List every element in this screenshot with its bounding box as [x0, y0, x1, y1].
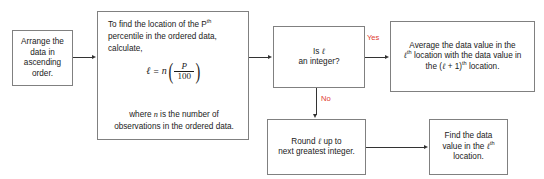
node-compute-location: To find the location of the Pth percenti…	[97, 11, 249, 140]
formula-tail-line-1-post: is the number of	[158, 110, 219, 119]
node-arrange-data: Arrange the data in ascending order.	[12, 30, 73, 86]
arrowhead-arrange-to-formula	[92, 55, 96, 59]
find-superscript-th: th	[490, 140, 495, 146]
round-line-2: next greatest integer.	[278, 147, 354, 156]
connector-round-to-find	[366, 147, 425, 148]
equation-lhs: ℓ	[146, 65, 150, 78]
formula-lead-text: To find the location of the Pth percenti…	[108, 19, 240, 55]
node-find-value-label: Find the data value in the ℓth location.	[434, 131, 503, 163]
formula-tail-line-1-pre: where	[129, 110, 154, 119]
node-average-label: Average the data value in the ℓth locati…	[395, 41, 530, 73]
equation-equals-sign: =	[154, 66, 159, 78]
formula-tail-text: where n is the number of observations in…	[108, 109, 240, 133]
arrowhead-decision-to-round	[313, 114, 317, 118]
formula-lead-line-1: To find the location of the P	[108, 20, 207, 29]
find-line-1: Find the data	[445, 131, 493, 140]
node-is-l-integer: Is ℓ an integer?	[273, 26, 365, 88]
average-line-2-post: location with the data value in	[412, 51, 522, 60]
equation-right-paren: )	[195, 63, 200, 81]
connector-decision-to-round	[316, 88, 317, 115]
arrowhead-decision-to-average	[385, 55, 389, 59]
edge-label-yes: Yes	[367, 33, 379, 42]
connector-arrange-to-formula	[73, 57, 93, 58]
average-line-3-pre: the (	[426, 62, 442, 71]
formula-lead-line-2: percentile in the ordered data,	[108, 32, 217, 41]
node-arrange-data-label: Arrange the data in ascending order.	[17, 37, 68, 79]
node-round-up-label: Round ℓ up to next greatest integer.	[272, 137, 361, 158]
node-find-value: Find the data value in the ℓth location.	[429, 119, 508, 175]
round-line-1-post: up to	[321, 137, 342, 146]
arrowhead-formula-to-decision	[268, 55, 272, 59]
formula-tail-line-2: observations in the ordered data.	[114, 122, 234, 131]
formula-lead-line-1-superscript: th	[207, 18, 212, 24]
edge-label-no: No	[321, 94, 331, 103]
equation-numerator: P	[178, 62, 190, 72]
find-line-2-pre: value in the	[442, 142, 486, 151]
equation-fraction: P 100	[174, 62, 194, 82]
equation-left-paren: (	[168, 63, 173, 81]
formula-equation: ℓ = n ( P 100 )	[108, 62, 240, 82]
decision-line-1-pre: Is	[313, 47, 322, 56]
decision-variable-l: ℓ	[322, 47, 325, 56]
arrowhead-round-to-find	[424, 145, 428, 149]
formula-lead-line-3: calculate,	[108, 44, 143, 53]
connector-formula-to-decision	[249, 57, 269, 58]
node-average-two-values: Average the data value in the ℓth locati…	[390, 21, 535, 92]
node-is-l-integer-label: Is ℓ an integer?	[278, 47, 360, 68]
average-line-3-mid: + 1)	[445, 62, 462, 71]
decision-line-2: an integer?	[299, 57, 340, 66]
find-line-3: location.	[453, 152, 484, 161]
node-round-up: Round ℓ up to next greatest integer.	[267, 119, 366, 175]
average-line-3-post: location.	[467, 62, 500, 71]
round-line-1-pre: Round	[291, 137, 317, 146]
connector-decision-to-average	[365, 57, 386, 58]
equation-denominator: 100	[174, 71, 194, 82]
percentile-flowchart: Arrange the data in ascending order. To …	[0, 0, 544, 179]
equation-coefficient: n	[162, 65, 167, 78]
average-line-1: Average the data value in the	[409, 41, 515, 50]
